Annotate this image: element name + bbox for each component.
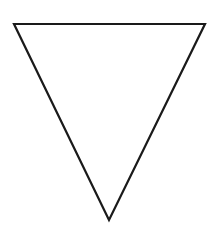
diagram-canvas	[0, 0, 220, 228]
inverted-triangle-shape	[14, 24, 205, 220]
